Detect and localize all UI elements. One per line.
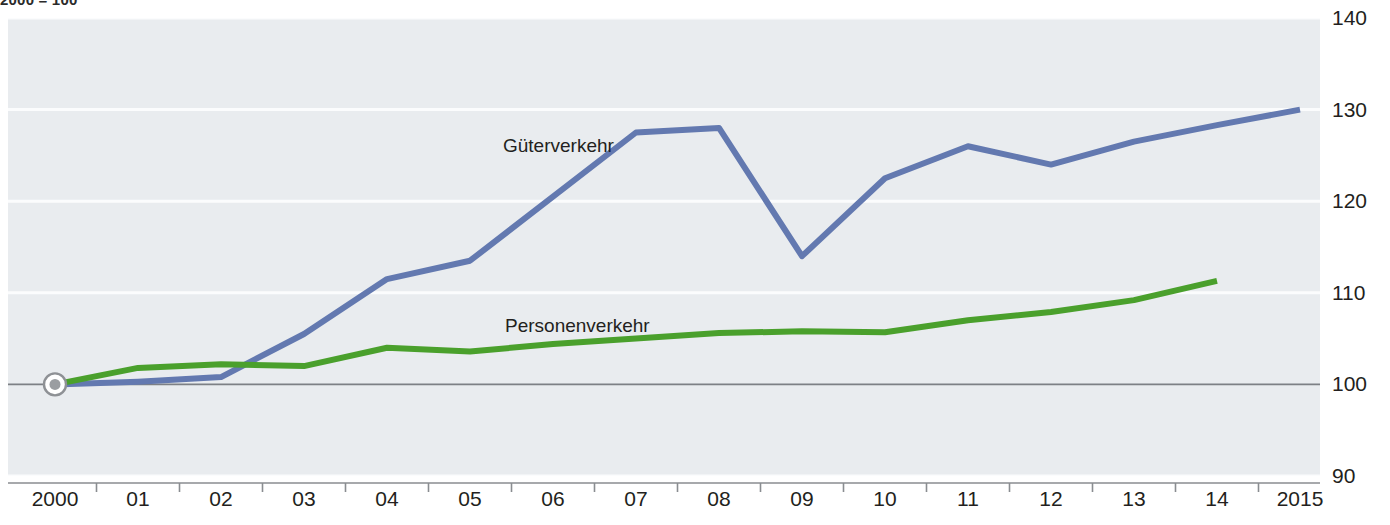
x-tick-label: 08 [707, 488, 730, 509]
x-tick-label: 04 [375, 488, 398, 509]
x-tick-label: 2015 [1277, 488, 1324, 509]
y-tick-label: 120 [1332, 190, 1367, 211]
x-tick-label: 2000 [32, 488, 79, 509]
y-tick-label: 110 [1332, 282, 1365, 303]
x-tick-label: 12 [1039, 488, 1062, 509]
series-lines [55, 110, 1300, 385]
origin-marker [44, 373, 66, 395]
y-axis: 14013012011010090 [1332, 0, 1390, 525]
chart-figure: 2000 = 100 Güterverkehr Personenverkehr … [0, 0, 1390, 525]
x-tick-label: 07 [624, 488, 647, 509]
index-base-caption: 2000 = 100 [0, 0, 78, 9]
series-label-personenverkehr: Personenverkehr [505, 316, 650, 335]
x-axis: 200001020304050607080910111213142015 [0, 482, 1390, 525]
x-tick-label: 03 [292, 488, 315, 509]
x-tick-label: 13 [1122, 488, 1145, 509]
plot-area [8, 18, 1320, 476]
x-tick-label: 02 [209, 488, 232, 509]
x-tick-label: 06 [541, 488, 564, 509]
series-label-guterverkehr: Güterverkehr [503, 136, 614, 155]
y-tick-label: 140 [1332, 7, 1367, 28]
y-tick-label: 130 [1332, 99, 1367, 120]
x-tick-label: 09 [790, 488, 813, 509]
gridlines [8, 18, 1320, 476]
x-tick-label: 14 [1205, 488, 1228, 509]
x-tick-label: 10 [873, 488, 896, 509]
chart-plot-svg [8, 18, 1320, 476]
x-tick-label: 01 [126, 488, 149, 509]
y-tick-label: 100 [1332, 373, 1367, 394]
x-tick-label: 05 [458, 488, 481, 509]
x-tick-label: 11 [957, 488, 979, 509]
